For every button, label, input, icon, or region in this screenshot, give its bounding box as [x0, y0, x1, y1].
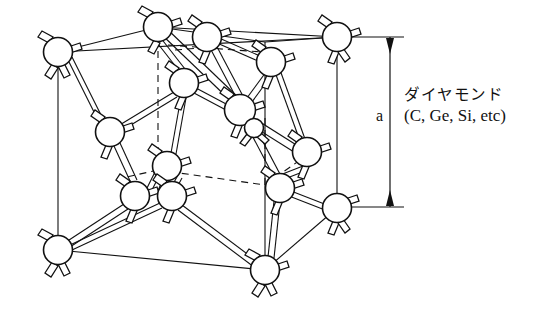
dimension-arrowhead-bottom	[386, 190, 394, 206]
bond	[66, 204, 128, 247]
atom	[116, 174, 159, 223]
atom	[188, 15, 231, 64]
caption-block: ダイヤモンド (C, Ge, Si, etc)	[404, 86, 506, 126]
caption-material-name: ダイヤモンド	[404, 86, 506, 104]
cube-edge-front-bottom-a	[58, 250, 265, 270]
atom	[38, 229, 73, 277]
atom	[318, 15, 361, 64]
dimension-arrowhead-top	[386, 38, 394, 54]
bond	[70, 203, 162, 250]
bond	[275, 70, 305, 141]
cube-edge-back-top	[158, 27, 337, 37]
figure-root: .cube-edge { stroke:#111; stroke-width:1…	[0, 0, 546, 311]
dimension-label-a: a	[376, 107, 383, 126]
atom	[165, 61, 208, 110]
bond	[289, 191, 327, 210]
atom	[38, 31, 82, 79]
caption-material-examples: (C, Ge, Si, etc)	[404, 106, 506, 126]
bond	[178, 205, 258, 267]
atom	[323, 194, 360, 236]
atom	[91, 110, 134, 159]
atom	[245, 249, 289, 297]
atom	[288, 130, 331, 179]
diamond-crystal-structure-drawing: .cube-edge { stroke:#111; stroke-width:1…	[0, 0, 546, 311]
atom	[153, 174, 196, 223]
